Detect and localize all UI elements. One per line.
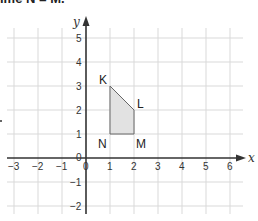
svg-text:4: 4 (76, 57, 82, 68)
svg-text:3: 3 (76, 81, 82, 92)
svg-text:5: 5 (76, 33, 82, 44)
y-tick-labels: 5 4 3 2 1 0 −1 −2 (70, 33, 82, 212)
svg-text:−1: −1 (70, 177, 82, 188)
svg-text:−2: −2 (70, 201, 82, 212)
x-axis-arrow-icon (236, 155, 246, 162)
svg-text:6: 6 (227, 161, 233, 172)
svg-text:0: 0 (83, 161, 89, 172)
svg-text:5: 5 (203, 161, 209, 172)
svg-text:1: 1 (76, 129, 82, 140)
svg-text:2: 2 (76, 105, 82, 116)
coordinate-grid: x y −3 −2 −1 0 1 2 3 4 5 6 5 4 3 2 1 0 −… (0, 0, 258, 221)
svg-text:3: 3 (155, 161, 161, 172)
y-axis-arrow-icon (83, 16, 90, 26)
svg-text:1: 1 (107, 161, 113, 172)
svg-text:−2: −2 (32, 161, 44, 172)
svg-text:−3: −3 (8, 161, 20, 172)
vertex-label-n: N (98, 137, 107, 151)
svg-text:4: 4 (179, 161, 185, 172)
vertex-label-k: K (99, 73, 107, 87)
vertex-label-l: L (137, 97, 144, 111)
svg-text:0: 0 (76, 152, 82, 163)
y-axis-label: y (72, 15, 80, 29)
svg-text:2: 2 (131, 161, 137, 172)
x-tick-labels: −3 −2 −1 0 1 2 3 4 5 6 (8, 161, 233, 172)
shape-klmn (110, 86, 134, 134)
vertex-label-m: M (136, 137, 146, 151)
x-axis-label: x (248, 151, 255, 165)
svg-text:−1: −1 (56, 161, 68, 172)
